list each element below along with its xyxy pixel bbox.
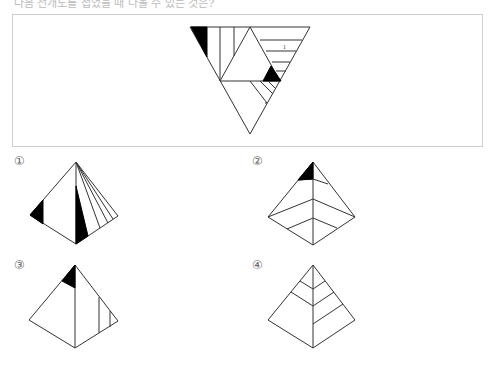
option-2-figure[interactable]	[268, 162, 355, 245]
option-3-label[interactable]: ③	[14, 258, 25, 272]
net-diagram: 1	[190, 27, 310, 134]
option-4-label[interactable]: ④	[252, 258, 263, 272]
option-1-label[interactable]: ①	[14, 154, 25, 168]
option-4-figure[interactable]	[268, 265, 355, 348]
option-2-label[interactable]: ②	[252, 154, 263, 168]
diagram-canvas: 1	[0, 0, 493, 368]
option-3-figure[interactable]	[29, 265, 118, 348]
svg-text:1: 1	[283, 44, 286, 50]
option-1-figure[interactable]	[30, 162, 118, 244]
